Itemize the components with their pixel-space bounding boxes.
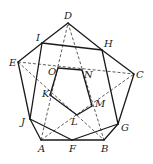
point-label-I: I	[35, 32, 41, 43]
point-label-H: H	[103, 38, 113, 49]
point-label-N: N	[83, 69, 94, 80]
point-label-E: E	[8, 57, 17, 68]
point-label-M: M	[94, 98, 106, 109]
point-label-B: B	[100, 143, 108, 154]
segment-KL	[50, 95, 77, 115]
point-label-L: L	[70, 116, 78, 127]
segment-GC	[118, 74, 134, 124]
segment-EJ	[18, 62, 30, 119]
point-labels: DIHECONKMJGLAFB	[8, 10, 144, 154]
point-label-D: D	[63, 10, 72, 21]
segment-IH	[42, 43, 102, 50]
segment-ML	[77, 106, 92, 115]
segment-IE	[18, 43, 42, 62]
point-label-K: K	[41, 88, 50, 99]
dashed-segment-EC	[18, 62, 134, 74]
point-label-C: C	[136, 69, 144, 80]
point-label-G: G	[121, 122, 129, 133]
point-label-O: O	[48, 66, 56, 77]
segment-HD	[68, 23, 102, 50]
point-label-F: F	[68, 143, 77, 154]
segment-IJ	[30, 43, 42, 119]
point-label-A: A	[37, 143, 45, 154]
point-label-J: J	[19, 116, 26, 127]
geometry-diagram: DIHECONKMJGLAFB	[0, 0, 153, 164]
